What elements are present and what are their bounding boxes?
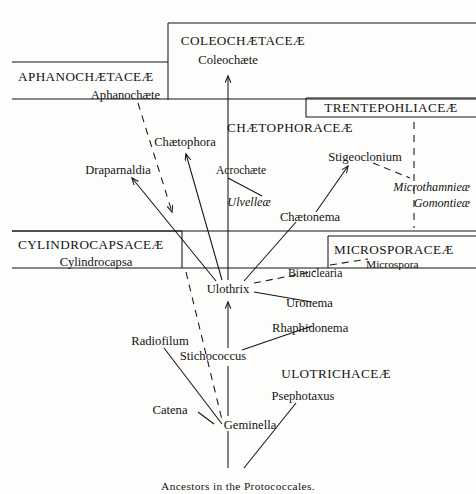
genus-label-binuclearia: Binuclearia [288, 268, 342, 280]
family-label-microsporaceae: MICROSPORACEÆ [334, 243, 454, 256]
phylogenetic-diagram: COLEOCHÆTACEÆ Coleochæte APHANOCHÆTACEÆ … [0, 0, 476, 494]
edge-binuclearia-microspora [330, 259, 368, 265]
group-label-ulvelleae: Ulvelleæ [227, 196, 270, 208]
genus-label-ulothrix: Ulothrix [207, 283, 250, 296]
genus-label-psephotaxus: Psephotaxus [272, 390, 335, 403]
genus-label-radiofilum: Radiofilum [131, 335, 188, 348]
genus-label-aphanochaete: Aphanochæte [91, 89, 160, 102]
genus-label-draparnaldia: Draparnaldia [85, 164, 151, 177]
genus-label-geminella: Geminella [224, 419, 276, 432]
edge-chaetonema-stigeoclonium [316, 166, 348, 212]
family-label-ulotrichaceae: ULOTRICHACEÆ [281, 367, 391, 380]
genus-label-chaetophora: Chætophora [154, 136, 216, 149]
genus-label-chaetonema: Chætonema [280, 211, 340, 224]
genus-label-cylindrocapsa: Cylindrocapsa [60, 256, 133, 269]
genus-label-microspora: Microspora [366, 259, 419, 270]
family-label-coleochaetaceae: COLEOCHÆTACEÆ [181, 34, 305, 47]
family-label-chaetophoraceae: CHÆTOPHORACEÆ [227, 121, 353, 134]
edge-ulothrix-draparnaldia [132, 178, 216, 281]
genus-label-catena: Catena [153, 404, 188, 417]
group-label-microthamnieae: Microthamnieæ [393, 181, 470, 193]
genus-label-uronema: Uronema [286, 297, 333, 310]
edge-psephotaxus-protococcales [244, 403, 296, 468]
genus-label-rhaphidonema: Rhaphidonema [272, 322, 348, 335]
genus-label-acrochaete: Acrochæte [216, 165, 266, 177]
family-label-cylindrocapsaceae: CYLINDROCAPSACEÆ [18, 238, 164, 251]
edge-acrochaete-ulvelleae [228, 178, 262, 196]
figure-caption: Ancestors in the Protococcales. [161, 481, 315, 492]
genus-label-coleochaete: Coleochæte [198, 54, 257, 67]
group-label-gomontieae: Gomontieæ [414, 197, 470, 209]
genus-label-stigeoclonium: Stigeoclonium [328, 151, 401, 164]
edge-aphanochaete-descent [138, 103, 172, 212]
family-label-aphanochaetaceae: APHANOCHÆTACEÆ [18, 70, 154, 83]
family-label-trentepohliaceae: TRENTEPOHLIACEÆ [324, 101, 457, 114]
genus-label-stichococcus: Stichococcus [180, 350, 246, 363]
edge-stigeoclonium-microthamnieae [373, 163, 410, 178]
edge-catena-geminella [198, 412, 214, 424]
